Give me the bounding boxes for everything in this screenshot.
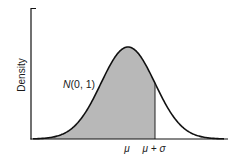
normal-density-figure: Density N(0, 1) μ μ + σ — [0, 0, 240, 161]
shaded-area — [32, 47, 155, 139]
curve-label: N(0, 1) — [63, 78, 95, 90]
y-axis-label: Density — [16, 58, 27, 91]
x-tick-mu: μ — [123, 143, 130, 154]
x-tick-mu-plus-sigma: μ + σ — [142, 143, 167, 154]
density-plot: Density N(0, 1) μ μ + σ — [0, 0, 240, 161]
curve-label-params: (0, 1) — [71, 78, 96, 90]
